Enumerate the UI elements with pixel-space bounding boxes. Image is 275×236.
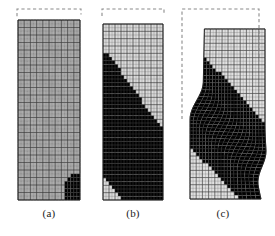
panel-c-caption: (c) (192, 207, 254, 219)
panel-c (174, 6, 275, 206)
panel-b-mesh-svg (81, 2, 185, 206)
panel-a-reference-outline (17, 9, 81, 16)
panel-b (81, 2, 185, 206)
panel-b-caption: (b) (103, 207, 163, 219)
panel-b-reference-outline (102, 9, 164, 16)
panel-c-mesh-svg (174, 6, 275, 206)
figure-shear-band-evolution: (a) (b) (c) (0, 0, 275, 236)
panel-a-caption: (a) (18, 207, 80, 219)
